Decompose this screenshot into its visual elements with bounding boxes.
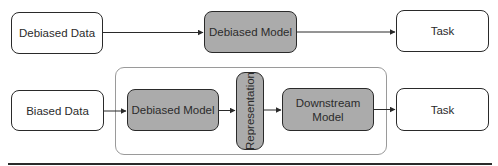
- edges: [0, 0, 498, 166]
- bottom-rule: [8, 163, 492, 165]
